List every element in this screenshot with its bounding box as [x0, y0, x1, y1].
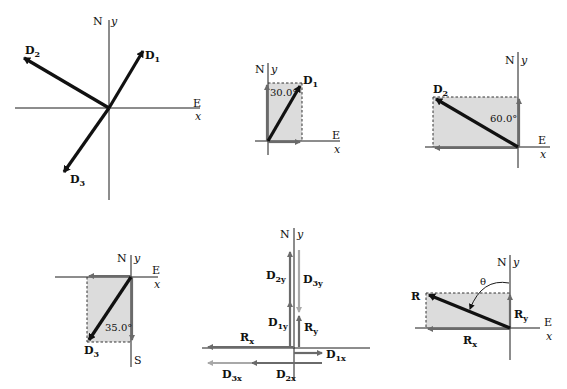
label-d1: D1: [303, 74, 318, 89]
label-d2y: D2y: [266, 269, 286, 284]
label-d3x: D3x: [222, 368, 242, 383]
north-label: N: [497, 256, 507, 269]
vector-d1: [109, 51, 143, 108]
panel-component-sum: N y D2y D3y D1y Ry Rx D1x D3x D2x: [202, 228, 370, 383]
x-label: x: [154, 278, 161, 291]
vector-d3: [64, 108, 109, 172]
y-label: y: [110, 15, 118, 28]
x-label: x: [540, 148, 547, 161]
x-label: x: [334, 143, 341, 156]
vector-d2: [24, 58, 109, 108]
south-label: S: [134, 354, 142, 367]
east-label: E: [193, 97, 201, 110]
label-d1y: D1y: [268, 316, 288, 331]
north-label: N: [93, 15, 103, 28]
label-r: R: [411, 290, 421, 303]
label-d3: D3: [84, 344, 100, 359]
east-label: E: [538, 134, 546, 147]
x-label: x: [195, 110, 202, 123]
label-d2: D2: [25, 44, 40, 59]
label-d1: D1: [145, 49, 160, 64]
east-label: E: [544, 316, 552, 329]
angle-label: 30.0°: [270, 87, 297, 98]
north-label: N: [505, 54, 515, 67]
y-label: y: [133, 252, 141, 265]
panel-d3-components: N y E x S 35.0° D3: [55, 252, 161, 367]
north-label: N: [117, 252, 127, 265]
label-d1x: D1x: [326, 348, 346, 363]
north-label: N: [255, 63, 265, 76]
label-d2: D2: [433, 83, 448, 98]
label-d2x: D2x: [276, 368, 296, 383]
angle-label: 60.0°: [490, 113, 517, 124]
panel-resultant: N y E x θ R Ry Rx: [411, 255, 553, 360]
y-label: y: [270, 63, 278, 76]
east-label: E: [152, 264, 160, 277]
panel-d1-components: N y E x 30.0° D1: [255, 63, 341, 156]
east-label: E: [332, 129, 340, 142]
x-label: x: [546, 330, 553, 343]
label-ry: Ry: [514, 308, 528, 323]
y-label: y: [296, 228, 304, 241]
angle-label: 35.0°: [105, 322, 132, 333]
label-ry: Ry: [304, 321, 318, 336]
y-label: y: [512, 256, 520, 269]
label-d3: D3: [70, 173, 86, 188]
north-label: N: [280, 228, 290, 241]
panel-d2-components: N y E x 60.0° D2: [425, 52, 550, 168]
panel-vectors-all: N y E x D1 D2 D3: [15, 15, 202, 200]
label-rx: Rx: [240, 331, 254, 346]
y-label: y: [520, 54, 528, 67]
vector-diagram-figure: N y E x D1 D2 D3 N y E x 30.0° D1: [0, 0, 567, 389]
label-d3y: D3y: [303, 273, 323, 288]
angle-label: θ: [480, 276, 486, 287]
label-rx: Rx: [463, 334, 477, 349]
